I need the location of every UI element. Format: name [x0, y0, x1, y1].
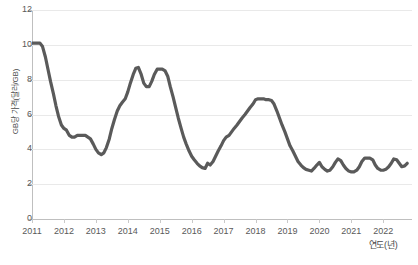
x-axis-title: 연도(년) — [352, 238, 414, 251]
y-axis-title: GB당 가격(달러/GB) — [9, 50, 20, 154]
chart-figure: 024681012 201120122013201420152016201720… — [0, 0, 418, 265]
x-tick-mark — [160, 219, 161, 223]
data-line-svg — [32, 10, 412, 219]
y-tick-label: 10 — [10, 40, 32, 49]
x-tick-mark — [256, 219, 257, 223]
x-tick-mark — [224, 219, 225, 223]
y-tick-label: 0 — [10, 214, 32, 223]
x-tick-label: 2022 — [363, 226, 403, 236]
x-tick-mark — [192, 219, 193, 223]
x-tick-mark — [351, 219, 352, 223]
x-tick-mark — [128, 219, 129, 223]
y-tick-label: 12 — [10, 5, 32, 14]
figure-caption — [0, 256, 418, 265]
x-tick-mark — [383, 219, 384, 223]
x-axis-line — [32, 219, 412, 220]
series-line-gb-price — [32, 43, 407, 172]
x-tick-mark — [287, 219, 288, 223]
plot-area — [32, 10, 412, 219]
x-tick-mark — [64, 219, 65, 223]
y-tick-label: 2 — [10, 179, 32, 188]
x-tick-mark — [96, 219, 97, 223]
x-tick-mark — [32, 219, 33, 223]
x-tick-mark — [319, 219, 320, 223]
